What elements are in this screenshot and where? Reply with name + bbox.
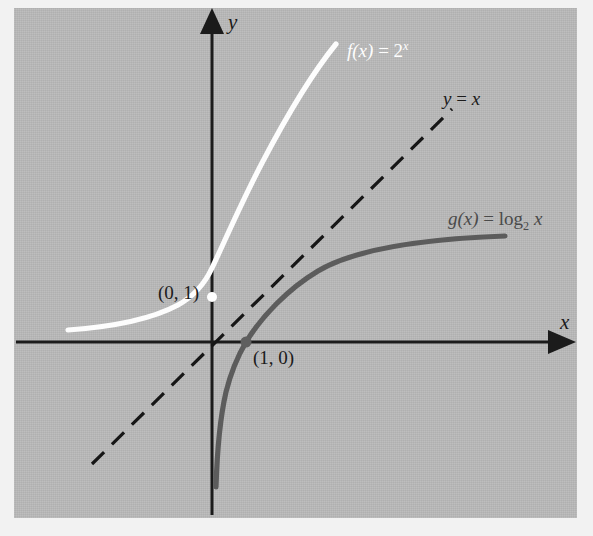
identity-label-rhs: x [472, 88, 480, 109]
exponential-label-equals: = [378, 40, 389, 61]
identity-line-label: y = x [443, 89, 480, 108]
point-label-0-1: (0, 1) [158, 283, 199, 302]
math-figure: y x f(x) = 2x y = x g(x) = log2 x (0, 1)… [0, 0, 593, 536]
exponential-curve-label: f(x) = 2x [347, 40, 409, 60]
graph-vector-layer [0, 0, 593, 536]
exponential-label-fn: f(x) [347, 40, 373, 61]
point-label-1-0: (1, 0) [253, 348, 294, 367]
logarithm-label-arg: x [534, 208, 542, 229]
point-marker-0-1 [207, 292, 217, 302]
x-axis [16, 330, 576, 354]
logarithm-label-fn: g(x) [448, 208, 479, 229]
identity-label-equals: = [456, 88, 467, 109]
identity-line-curve [92, 109, 452, 464]
x-axis-label: x [560, 312, 569, 333]
exponential-label-exponent: x [403, 39, 408, 53]
logarithm-curve-label: g(x) = log2 x [448, 209, 542, 232]
logarithm-label-equals: = [483, 208, 494, 229]
exponential-label-base: 2 [394, 40, 404, 61]
point-marker-1-0 [241, 337, 252, 348]
y-axis-label: y [228, 12, 237, 33]
logarithm-label-log: log [499, 208, 523, 229]
